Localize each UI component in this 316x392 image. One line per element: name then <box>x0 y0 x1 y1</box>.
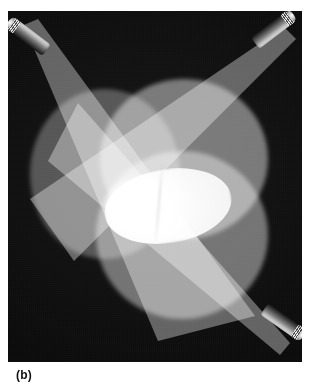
photograph <box>8 11 302 362</box>
brightest-hotspot <box>108 177 174 233</box>
figure-caption: (b) <box>16 368 32 382</box>
figure-container: (b) <box>0 0 316 392</box>
